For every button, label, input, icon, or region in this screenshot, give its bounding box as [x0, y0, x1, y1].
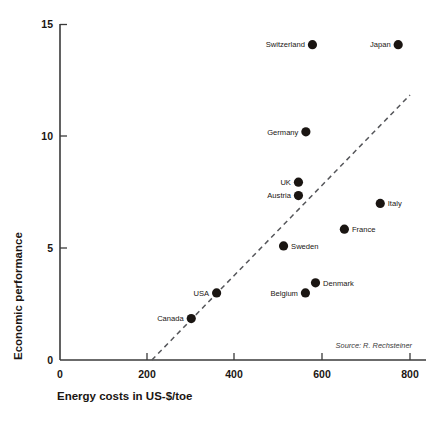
y-tick-label-15: 15 — [41, 18, 53, 30]
data-points-group: SwitzerlandJapanGermanyUKAustriaItalyFra… — [157, 40, 403, 323]
x-tick-label-600: 600 — [313, 368, 331, 380]
data-point[interactable] — [187, 314, 196, 323]
point-label: Austria — [267, 191, 291, 200]
data-point[interactable] — [294, 191, 303, 200]
y-tick-labels: 15 10 5 0 — [41, 18, 53, 366]
x-tick-label-0: 0 — [57, 368, 63, 380]
point-label: Germany — [267, 128, 298, 137]
y-tick-label-0: 0 — [47, 354, 53, 366]
data-point[interactable] — [212, 288, 221, 297]
x-axis-title: Energy costs in US-$/toe — [57, 390, 192, 402]
x-tick-label-400: 400 — [225, 368, 243, 380]
source-note: Source: R. Rechsteiner — [336, 341, 413, 350]
data-point[interactable] — [301, 127, 310, 136]
point-label: USA — [194, 289, 211, 298]
data-point[interactable] — [279, 241, 288, 250]
axes-group — [60, 24, 426, 360]
point-label: Japan — [370, 40, 391, 49]
y-tick-label-10: 10 — [41, 130, 53, 142]
x-tick-label-200: 200 — [138, 368, 156, 380]
data-point[interactable] — [308, 40, 317, 49]
data-point[interactable] — [301, 288, 310, 297]
point-label: Canada — [157, 314, 184, 323]
point-label: Denmark — [323, 279, 354, 288]
chart-page: 15 10 5 0 0 200 400 600 800 SwitzerlandJ… — [0, 0, 447, 422]
point-label: Belgium — [271, 289, 298, 298]
data-point[interactable] — [376, 199, 385, 208]
data-point[interactable] — [294, 178, 303, 187]
point-label: Sweden — [291, 242, 318, 251]
data-point[interactable] — [394, 40, 403, 49]
x-tick-label-800: 800 — [401, 368, 419, 380]
point-label: France — [352, 225, 376, 234]
point-label: Italy — [388, 199, 402, 208]
point-label: Switzerland — [266, 40, 305, 49]
scatter-chart: 15 10 5 0 0 200 400 600 800 SwitzerlandJ… — [0, 0, 447, 422]
data-point[interactable] — [311, 278, 320, 287]
x-tick-labels: 0 200 400 600 800 — [57, 368, 419, 380]
point-label: UK — [280, 178, 291, 187]
data-point[interactable] — [340, 225, 349, 234]
y-axis-title: Economic performance — [12, 232, 24, 360]
y-tick-label-5: 5 — [47, 242, 53, 254]
